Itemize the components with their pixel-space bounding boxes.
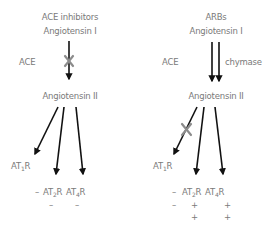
right-at4r-sign-2: +	[224, 212, 231, 222]
right-at4r-sign-1: +	[224, 200, 231, 210]
right-at2r-sign-2: +	[191, 212, 198, 222]
left-at4r-sign: –	[75, 200, 79, 210]
right-ace-label: ACE	[162, 57, 178, 67]
right-at2r-arrow	[196, 107, 204, 174]
left-at4r-arrow	[76, 107, 83, 174]
right-angiotensin-i: Angiotensin I	[190, 26, 243, 36]
left-angiotensin-i: Angiotensin I	[44, 26, 97, 36]
left-at4r-label: AT4R	[66, 187, 85, 200]
left-at2r-sign: –	[49, 200, 53, 210]
right-at4r-label: AT4R	[205, 187, 224, 200]
left-angiotensin-ii: Angiotensin II	[42, 91, 97, 101]
right-block-x-icon	[182, 124, 191, 135]
right-at2r-label: AT2R	[182, 187, 201, 200]
left-at1r-arrow	[35, 107, 58, 154]
left-at1r-label: AT1R	[11, 161, 30, 174]
right-sign-row1-lead: –	[172, 200, 176, 210]
right-title: ARBs	[205, 12, 226, 22]
left-title: ACE inhibitors	[42, 12, 99, 22]
left-ace-label: ACE	[19, 57, 35, 67]
left-at2r-label: AT2R	[43, 187, 62, 200]
right-at4r-arrow	[215, 107, 223, 174]
right-at1r-label: AT1R	[153, 161, 172, 174]
right-sign-lead: –	[172, 187, 176, 197]
right-at2r-sign-1: +	[191, 200, 198, 210]
right-chymase-label: chymase	[225, 57, 262, 67]
left-at2r-arrow	[56, 107, 64, 174]
right-angiotensin-ii: Angiotensin II	[188, 91, 243, 101]
left-sign-lead: –	[35, 187, 39, 197]
